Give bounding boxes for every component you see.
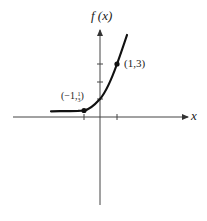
point-label-prefix: (−1, [61, 90, 77, 101]
point-label-suffix: ) [80, 90, 83, 101]
y-axis-label: f (x) [91, 8, 112, 24]
point-label-1-3: (1,3) [124, 57, 145, 69]
x-axis-label: x [191, 108, 197, 124]
exponential-graph [0, 0, 207, 221]
point-neg1-third [81, 108, 86, 113]
point-label-neg1-third: (−1,13) [61, 90, 84, 103]
point-1-3 [114, 61, 119, 66]
